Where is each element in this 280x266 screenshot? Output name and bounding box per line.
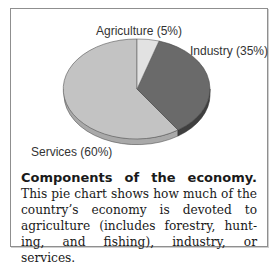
figure-caption: Components of the economy. This pie char…	[21, 170, 257, 266]
caption-title: Components of the economy.	[21, 170, 257, 185]
label-services: Services (60%)	[31, 145, 112, 159]
caption-body: This pie chart shows how much of the cou…	[21, 187, 257, 265]
label-agriculture: Agriculture (5%)	[96, 24, 182, 38]
label-industry: Industry (35%)	[190, 44, 268, 58]
